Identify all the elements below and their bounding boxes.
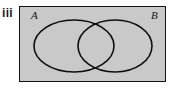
- set-label-a: A: [31, 10, 38, 21]
- part-label-iii: iii: [2, 7, 17, 22]
- set-circle-a: [34, 20, 114, 72]
- venn-circles-group: [19, 6, 166, 82]
- venn-diagram-figure: iii A B: [0, 0, 171, 89]
- set-circle-b: [78, 20, 152, 72]
- set-label-b: B: [151, 10, 158, 21]
